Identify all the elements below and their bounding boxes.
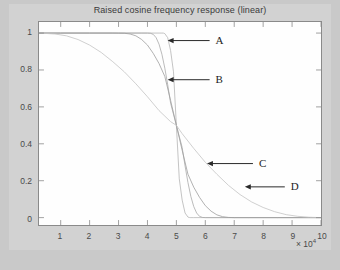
x-tick-label: 10 bbox=[314, 231, 330, 241]
plot-canvas bbox=[39, 22, 321, 225]
curve-c bbox=[39, 33, 321, 218]
y-tick-label: 0.2 bbox=[4, 176, 32, 186]
x-tick-label: 3 bbox=[110, 231, 126, 241]
annotation-label-d: D bbox=[291, 180, 299, 192]
y-tick-label: 0 bbox=[4, 214, 32, 224]
page-title: Raised cosine frequency response (linear… bbox=[38, 5, 322, 15]
x-tick-label: 8 bbox=[256, 231, 272, 241]
y-tick-label: 0.8 bbox=[4, 64, 32, 74]
y-tick-label: 1 bbox=[4, 27, 32, 37]
curve-d bbox=[39, 33, 321, 218]
x-tick-label: 1 bbox=[52, 231, 68, 241]
y-tick-label: 0.4 bbox=[4, 139, 32, 149]
x-axis-exponent-label: × 104 bbox=[296, 238, 316, 249]
tick-marks-group bbox=[39, 22, 321, 225]
plot-axes bbox=[38, 21, 322, 226]
x-tick-label: 4 bbox=[139, 231, 155, 241]
x-tick-label: 6 bbox=[197, 231, 213, 241]
x-exponent-power: 4 bbox=[313, 238, 316, 244]
annotation-label-b: B bbox=[216, 73, 223, 85]
curve-a bbox=[39, 33, 321, 218]
annotation-label-c: C bbox=[259, 157, 266, 169]
annotation-label-a: A bbox=[216, 34, 224, 46]
x-tick-label: 5 bbox=[168, 231, 184, 241]
matlab-figure-window: Raised cosine frequency response (linear… bbox=[0, 0, 340, 270]
x-tick-label: 7 bbox=[227, 231, 243, 241]
x-tick-label: 2 bbox=[81, 231, 97, 241]
curve-group bbox=[39, 33, 321, 218]
x-exponent-prefix: × 10 bbox=[296, 239, 313, 249]
y-tick-label: 0.6 bbox=[4, 102, 32, 112]
curve-b bbox=[39, 33, 321, 218]
